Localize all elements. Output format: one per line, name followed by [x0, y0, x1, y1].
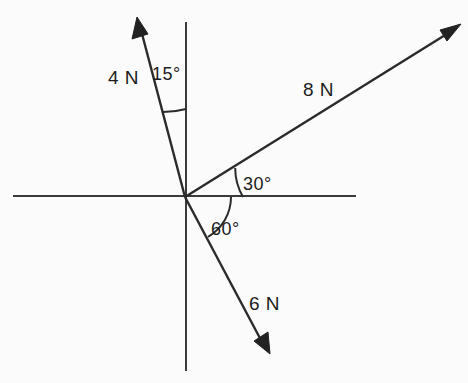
- vector-4n-group: [132, 17, 185, 197]
- vector-6n-arrowhead: [254, 332, 270, 354]
- label-force-8n: 8 N: [303, 79, 334, 100]
- label-force-6n: 6 N: [249, 293, 280, 314]
- angle-arc-30: [235, 168, 243, 197]
- label-force-4n: 4 N: [108, 67, 139, 88]
- label-angle-30: 30°: [243, 174, 272, 194]
- vector-4n-shaft: [141, 30, 185, 197]
- angle-arc-15: [162, 109, 186, 112]
- vector-diagram-canvas: 4 N 8 N 6 N 15° 30° 60°: [0, 0, 468, 383]
- label-angle-60: 60°: [211, 219, 240, 239]
- angle-arcs-group: [162, 109, 243, 237]
- label-angle-15: 15°: [152, 64, 181, 84]
- labels-group: 4 N 8 N 6 N 15° 30° 60°: [108, 64, 334, 314]
- vector-8n-shaft: [185, 32, 450, 197]
- vector-8n-group: [185, 24, 461, 197]
- vector-8n-arrowhead: [440, 24, 461, 41]
- force-vector-diagram: 4 N 8 N 6 N 15° 30° 60°: [0, 0, 468, 383]
- vector-4n-arrowhead: [132, 17, 148, 39]
